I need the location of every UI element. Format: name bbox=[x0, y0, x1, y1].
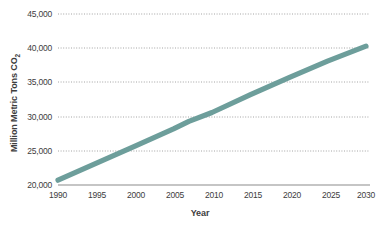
x-tick-label: 2000 bbox=[127, 190, 146, 200]
x-tick-label: 2020 bbox=[283, 190, 302, 200]
x-tick-label: 1995 bbox=[88, 190, 107, 200]
x-tick-label: 1990 bbox=[49, 190, 68, 200]
y-tick-label: 45,000 bbox=[27, 9, 52, 19]
y-axis-title-main: Million Metric Tons CO bbox=[9, 57, 19, 152]
x-tick-label: 2030 bbox=[357, 190, 376, 200]
x-tick-label: 2025 bbox=[322, 190, 341, 200]
y-axis-title-group: Million Metric Tons CO2 bbox=[9, 53, 21, 152]
chart-container: 45,000 40,000 35,000 30,000 25,000 20,00… bbox=[0, 0, 379, 233]
y-axis-title-subscript: 2 bbox=[14, 53, 21, 57]
y-tick-label: 20,000 bbox=[27, 180, 52, 190]
x-axis-tick-labels: 1990 1995 2000 2005 2010 2015 2020 2025 … bbox=[49, 190, 376, 200]
y-tick-label: 25,000 bbox=[27, 146, 52, 156]
y-axis-tick-labels: 45,000 40,000 35,000 30,000 25,000 20,00… bbox=[27, 9, 52, 190]
x-axis-title: Year bbox=[191, 208, 210, 218]
y-axis-title: Million Metric Tons CO2 bbox=[9, 53, 21, 152]
data-series-line bbox=[58, 46, 366, 180]
y-tick-label: 35,000 bbox=[27, 77, 52, 87]
gridlines bbox=[58, 14, 370, 151]
x-tick-label: 2015 bbox=[244, 190, 263, 200]
y-tick-label: 40,000 bbox=[27, 43, 52, 53]
x-tick-label: 2005 bbox=[166, 190, 185, 200]
y-tick-label: 30,000 bbox=[27, 112, 52, 122]
x-tick-label: 2010 bbox=[205, 190, 224, 200]
line-chart: 45,000 40,000 35,000 30,000 25,000 20,00… bbox=[0, 0, 379, 233]
